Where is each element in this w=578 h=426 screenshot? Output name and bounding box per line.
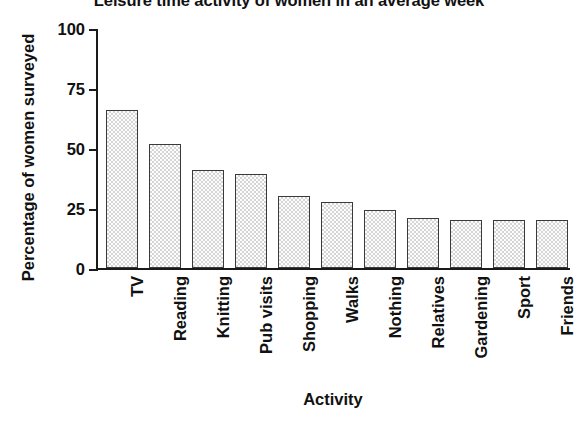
x-label-nothing: Nothing [386,276,405,396]
x-label-tv: TV [128,276,147,396]
x-label-relatives: Relatives [429,276,448,396]
y-axis-title: Percentage of women surveyed [19,23,38,293]
bar-knitting [192,170,224,268]
bar-gardening [450,220,482,268]
x-label-sport: Sport [515,276,534,396]
x-label-friends: Friends [558,276,577,396]
x-label-gardening: Gardening [472,276,491,396]
x-label-shopping: Shopping [300,276,319,396]
plot-area: 0255075100 [96,29,570,269]
y-tick-mark [89,89,98,91]
x-axis-line [96,268,570,270]
y-tick-label: 25 [67,200,85,219]
x-label-reading: Reading [171,276,190,396]
x-axis-title: Activity [96,390,570,409]
bar-reading [149,144,181,268]
bar-chart: Leisure time activity of women in an ave… [0,0,578,426]
bar-sport [493,220,525,268]
y-tick-mark [89,29,98,31]
x-label-knitting: Knitting [214,276,233,396]
bar-walks [321,202,353,268]
bar-tv [106,110,138,268]
y-tick-label: 100 [57,20,85,39]
bar-nothing [364,210,396,268]
y-tick-label: 75 [67,80,85,99]
bar-friends [536,220,568,268]
y-tick-mark [89,209,98,211]
chart-title: Leisure time activity of women in an ave… [0,0,578,10]
y-tick-label: 0 [76,260,85,279]
x-label-walks: Walks [343,276,362,396]
y-tick-mark [89,149,98,151]
y-tick-mark [89,269,98,271]
bar-pub-visits [235,174,267,268]
bar-shopping [278,196,310,268]
x-label-pub-visits: Pub visits [257,276,276,396]
bar-relatives [407,218,439,268]
y-tick-label: 50 [67,140,85,159]
